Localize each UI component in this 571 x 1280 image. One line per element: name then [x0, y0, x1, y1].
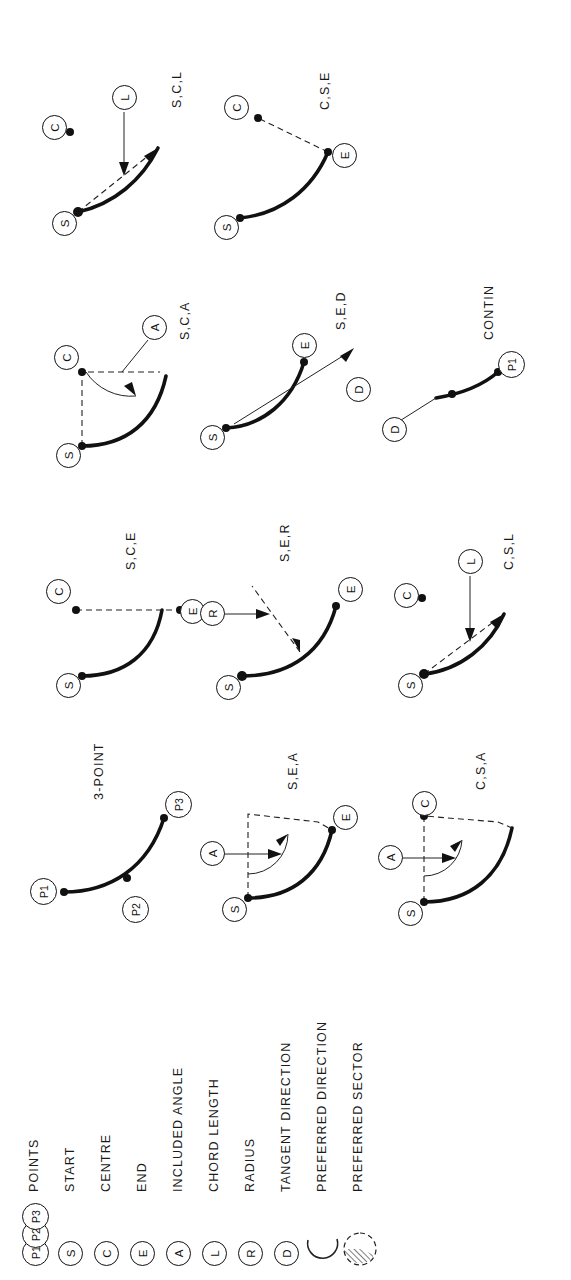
centre-symbol: C [90, 1204, 124, 1266]
legend-label-preferred-sector: PREFERRED SECTOR [351, 1041, 365, 1192]
panel-caption-c-s-a: C,S,A [474, 751, 488, 790]
node-c: C [94, 1241, 119, 1266]
chord-length-symbol: L [198, 1204, 232, 1266]
node-l: L [458, 549, 483, 574]
node-d: D [274, 1241, 299, 1266]
preferred-direction-arc-icon [306, 1204, 340, 1266]
node-c: C [412, 791, 437, 816]
panel-s-c-l: S C L S,C,L [30, 50, 210, 260]
panel-c-s-e: S C E C,S,E [210, 50, 390, 260]
points-symbol: P1 P2 P3 [18, 1204, 52, 1266]
node-a: A [142, 315, 167, 340]
node-d: D [382, 417, 407, 442]
panel-three-point: P1 P2 P3 3-POINT [30, 740, 205, 950]
panel-s-e-a: A S E S,E,A [200, 740, 380, 950]
node-d: D [346, 377, 371, 402]
node-s: S [398, 673, 423, 698]
tangent-direction-symbol: D [270, 1204, 304, 1266]
panel-caption-s-e-r: S,E,R [278, 523, 292, 562]
start-symbol: S [54, 1204, 88, 1266]
node-s: S [214, 215, 239, 240]
panel-caption-s-c-l: S,C,L [170, 71, 184, 108]
legend-label-tangent-direction: TANGENT DIRECTION [279, 1042, 293, 1192]
drawing-sheet: P1 P2 P3 POINTS S START C CENTRE E END [0, 0, 571, 1280]
legend-label-included-angle: INCLUDED ANGLE [171, 1067, 185, 1192]
node-s: S [56, 443, 81, 468]
node-c: C [42, 115, 67, 140]
legend-label-preferred-direction: PREFERRED DIRECTION [315, 1021, 329, 1192]
node-r: R [238, 1241, 263, 1266]
end-symbol: E [126, 1204, 160, 1266]
node-e: E [338, 577, 363, 602]
node-s: S [216, 675, 241, 700]
panel-c-s-a: A S C C,S,A [378, 740, 558, 950]
legend-label-centre: CENTRE [99, 1134, 113, 1192]
node-p1: P1 [498, 351, 525, 378]
panel-caption-three-point: 3-POINT [92, 742, 106, 800]
node-e: E [333, 805, 358, 830]
node-c: C [46, 579, 71, 604]
radius-symbol: R [234, 1204, 268, 1266]
node-c: C [394, 583, 419, 608]
panel-s-c-e: S C E S,C,E [28, 520, 208, 720]
panel-s-e-d: S E D S,E,D [200, 280, 380, 490]
node-s: S [200, 425, 225, 450]
node-l: L [202, 1241, 227, 1266]
legend-label-radius: RADIUS [243, 1138, 257, 1192]
legend-label-points: POINTS [27, 1139, 41, 1192]
node-c: C [54, 345, 79, 370]
panel-caption-s-c-e: S,C,E [124, 531, 138, 570]
legend-label-start: START [63, 1146, 77, 1192]
node-s: S [398, 901, 423, 926]
node-s: S [222, 897, 247, 922]
legend-label-end: END [135, 1162, 149, 1192]
legend-label-chord-length: CHORD LENGTH [207, 1078, 221, 1192]
node-l: L [112, 85, 137, 110]
panel-s-c-a: S C A S,C,A [30, 280, 210, 490]
node-a: A [378, 845, 403, 870]
panel-caption-s-e-d: S,E,D [334, 291, 348, 330]
node-e: E [130, 1241, 155, 1266]
panel-caption-s-c-a: S,C,A [178, 301, 192, 340]
node-e: E [292, 333, 317, 358]
panel-contin: D P1 CONTIN [378, 280, 558, 490]
node-p1: P1 [30, 878, 57, 905]
panel-c-s-l: S C L C,S,L [378, 510, 558, 720]
node-p3: P3 [165, 791, 192, 818]
node-p2: P2 [122, 896, 149, 923]
node-a: A [166, 1241, 191, 1266]
node-s: S [56, 673, 81, 698]
node-c: C [224, 95, 249, 120]
node-s: S [52, 211, 77, 236]
panel-caption-contin: CONTIN [482, 285, 496, 340]
legend: P1 P2 P3 POINTS S START C CENTRE E END [18, 1016, 558, 1266]
included-angle-symbol: A [162, 1204, 196, 1266]
node-e: E [332, 143, 357, 168]
panel-caption-s-e-a: S,E,A [286, 752, 300, 790]
panel-caption-c-s-e: C,S,E [318, 71, 332, 110]
node-a: A [200, 841, 225, 866]
panel-s-e-r: R S E S,E,R [200, 520, 380, 720]
node-s: S [58, 1241, 83, 1266]
panel-caption-c-s-l: C,S,L [502, 533, 516, 570]
node-p3: P3 [22, 1203, 49, 1230]
node-r: R [200, 601, 225, 626]
preferred-sector-hatched-icon [342, 1204, 376, 1266]
